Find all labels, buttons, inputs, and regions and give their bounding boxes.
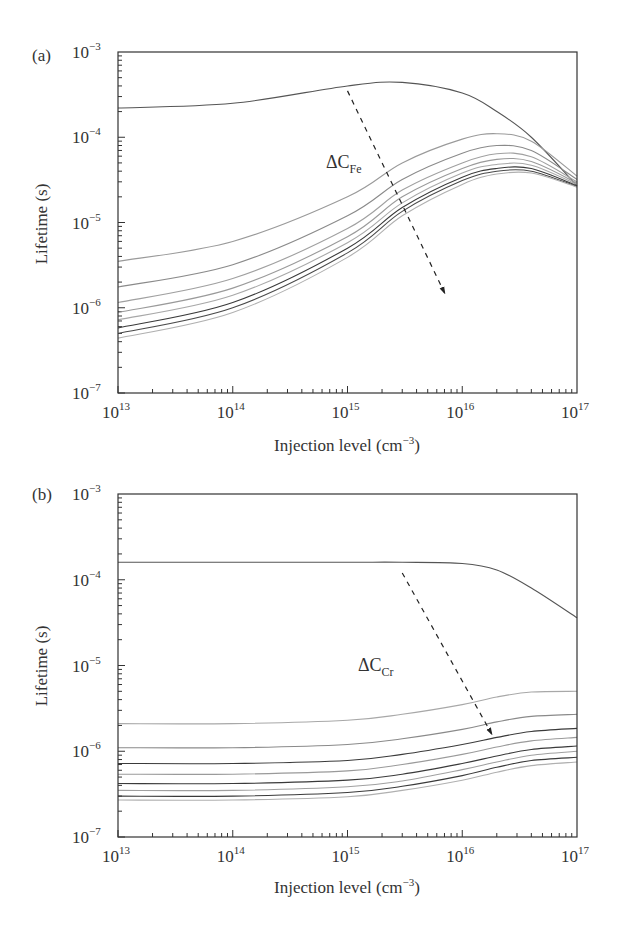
- x-tick-labels: 10131014101510161017: [102, 400, 590, 422]
- panel-label: (a): [32, 46, 51, 65]
- svg-text:Lifetime (s): Lifetime (s): [32, 184, 51, 265]
- data-curve: [118, 714, 577, 748]
- data-curve: [118, 163, 577, 320]
- data-curves: [118, 562, 577, 800]
- y-tick-label: 10−3: [72, 40, 101, 62]
- y-tick-label: 10−6: [72, 739, 101, 761]
- x-tick-label: 1014: [217, 400, 246, 422]
- x-tick-label: 1017: [561, 400, 590, 422]
- x-tick-label: 1013: [102, 844, 131, 866]
- data-curve: [118, 167, 577, 328]
- panel-a: (a) Lifetime (s) Injection level (cm−3) …: [32, 40, 590, 455]
- y-tick-label: 10−6: [72, 296, 101, 318]
- svg-text:Lifetime (s): Lifetime (s): [32, 626, 51, 707]
- annotation-delta-c-cr: ΔCCr: [358, 655, 394, 679]
- data-curve: [118, 153, 577, 303]
- svg-text:Injection level (cm−3): Injection level (cm−3): [274, 434, 420, 455]
- data-curves: [118, 82, 577, 338]
- x-tick-labels: 10131014101510161017: [102, 844, 590, 866]
- y-tick-label: 10−5: [72, 654, 101, 676]
- y-tick-label: 10−4: [72, 125, 101, 147]
- data-curve: [118, 762, 577, 800]
- y-tick-label: 10−7: [72, 381, 101, 403]
- x-axis-label: Injection level (cm−3): [274, 434, 420, 455]
- annotation-delta-c-fe: ΔCFe: [326, 152, 362, 176]
- y-tick-label: 10−4: [72, 568, 101, 590]
- x-tick-label: 1015: [332, 400, 361, 422]
- y-tick-labels: 10−710−610−510−410−3: [72, 482, 101, 847]
- x-tick-label: 1016: [446, 844, 475, 866]
- y-axis-label: Lifetime (s): [32, 184, 51, 265]
- x-tick-label: 1013: [102, 400, 131, 422]
- y-tick-label: 10−7: [72, 825, 101, 847]
- data-curve: [118, 562, 577, 618]
- y-tick-label: 10−3: [72, 482, 101, 504]
- data-curve: [118, 737, 577, 774]
- x-tick-label: 1016: [446, 400, 475, 422]
- data-curve: [118, 728, 577, 763]
- panel-label: (b): [32, 485, 52, 504]
- data-curve: [118, 691, 577, 724]
- axis-ticks: [118, 498, 572, 837]
- svg-text:Injection level (cm−3): Injection level (cm−3): [274, 876, 420, 897]
- plot-frame: [118, 52, 577, 393]
- x-tick-label: 1017: [561, 844, 590, 866]
- trend-arrow: [402, 573, 491, 734]
- data-curve: [118, 158, 577, 312]
- y-axis-label: Lifetime (s): [32, 626, 51, 707]
- panel-b: (b) Lifetime (s) Injection level (cm−3) …: [32, 482, 590, 897]
- y-tick-label: 10−5: [72, 211, 101, 233]
- y-tick-labels: 10−710−610−510−410−3: [72, 40, 101, 403]
- plot-frame: [118, 494, 577, 837]
- x-tick-label: 1014: [217, 844, 246, 866]
- figure: (a) Lifetime (s) Injection level (cm−3) …: [0, 0, 630, 941]
- x-tick-label: 1015: [332, 844, 361, 866]
- x-axis-label: Injection level (cm−3): [274, 876, 420, 897]
